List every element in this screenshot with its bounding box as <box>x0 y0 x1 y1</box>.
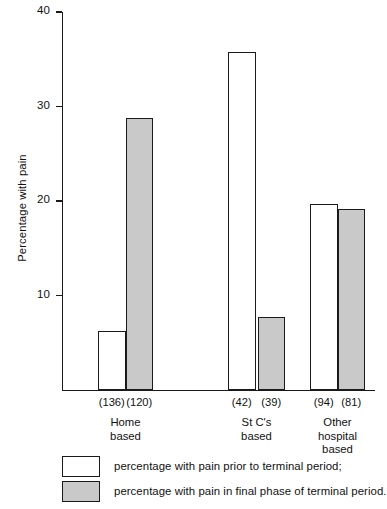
bars-layer <box>62 12 376 390</box>
legend-swatch-grey <box>62 481 100 502</box>
legend-swatch-white <box>62 456 100 477</box>
y-axis-title: Percentage with pain <box>16 133 28 283</box>
y-tick-label-30: 30 <box>12 99 50 111</box>
bar-prior-2 <box>310 204 338 390</box>
y-tick-label-40: 40 <box>12 4 50 16</box>
count-label-2-1: (81) <box>332 396 372 408</box>
bar-prior-1 <box>228 52 256 390</box>
count-label-0-1: (120) <box>120 396 160 408</box>
y-tick-label-20: 20 <box>12 193 50 205</box>
category-label-0: Home based <box>81 416 171 443</box>
bar-final-phase-1 <box>258 317 286 390</box>
y-tick-label-10: 10 <box>12 288 50 300</box>
legend-label-final: percentage with pain in final phase of t… <box>114 485 387 497</box>
category-label-1: St C's based <box>212 416 302 443</box>
bar-prior-0 <box>98 331 126 390</box>
chart-legend: percentage with pain prior to terminal p… <box>0 450 376 509</box>
bar-final-phase-0 <box>126 118 154 390</box>
bar-final-phase-2 <box>338 209 366 390</box>
count-label-1-1: (39) <box>252 396 292 408</box>
legend-label-prior: percentage with pain prior to terminal p… <box>114 460 342 472</box>
